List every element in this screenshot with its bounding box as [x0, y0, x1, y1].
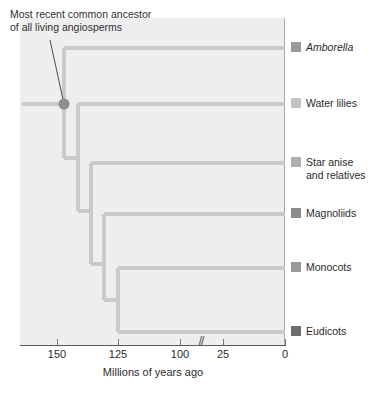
x-axis-title: Millions of years ago [20, 366, 286, 378]
x-tick-125 [118, 339, 119, 345]
x-tick-label-0: 0 [282, 348, 288, 360]
legend-swatch-star-anise [291, 157, 301, 167]
legend-swatch-magnoliids [291, 208, 301, 218]
ancestor-annotation: Most recent common ancestor of all livin… [10, 8, 190, 34]
x-tick-label-150: 150 [48, 348, 66, 360]
legend-label-eudicots: Eudicots [306, 325, 346, 338]
x-tick-label-100: 100 [171, 348, 189, 360]
legend-swatch-monocots [291, 262, 301, 272]
x-tick-label-25: 25 [217, 348, 229, 360]
ancestor-node-dot [59, 99, 70, 110]
legend-item-star-anise: Star anise and relatives [291, 156, 366, 181]
legend: Amborella Water lilies Star anise and re… [291, 0, 379, 394]
phylogenetic-tree-figure: Most recent common ancestor of all livin… [0, 0, 379, 394]
legend-label-star-anise: Star anise and relatives [306, 156, 366, 181]
x-tick-25 [223, 339, 224, 345]
legend-item-water-lilies: Water lilies [291, 97, 357, 110]
annotation-leader-line [50, 40, 64, 104]
x-tick-0 [285, 339, 286, 345]
legend-item-eudicots: Eudicots [291, 325, 346, 338]
legend-item-amborella: Amborella [291, 41, 353, 54]
legend-swatch-amborella [291, 42, 301, 52]
legend-swatch-eudicots [291, 326, 301, 336]
x-axis-line [20, 345, 286, 346]
legend-label-magnoliids: Magnoliids [306, 207, 356, 220]
x-tick-100 [180, 339, 181, 345]
legend-label-amborella: Amborella [306, 41, 353, 54]
legend-item-magnoliids: Magnoliids [291, 207, 356, 220]
x-tick-150 [57, 339, 58, 345]
legend-label-water-lilies: Water lilies [306, 97, 357, 110]
legend-item-monocots: Monocots [291, 261, 352, 274]
legend-swatch-water-lilies [291, 98, 301, 108]
x-tick-label-125: 125 [109, 348, 127, 360]
legend-label-monocots: Monocots [306, 261, 352, 274]
axis-break-marker: // [199, 334, 204, 348]
